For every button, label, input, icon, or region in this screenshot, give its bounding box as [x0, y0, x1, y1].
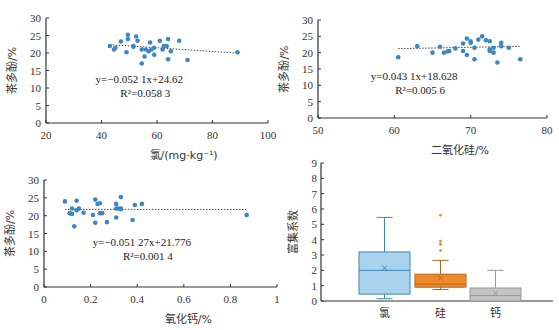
- data-point: [105, 220, 110, 225]
- data-point: [499, 41, 504, 46]
- r-squared: R²=0.005 6: [395, 84, 445, 96]
- y-tick-label: 0: [312, 295, 318, 307]
- y-tick-label: 2: [312, 264, 318, 276]
- box-silicon: [415, 214, 466, 290]
- data-point: [396, 55, 401, 60]
- y-tick-label: 6: [312, 203, 318, 215]
- y-tick-label: 5: [36, 100, 42, 112]
- y-axis-label: 茶多酚/%: [5, 47, 19, 94]
- x-tick-label: 0.8: [224, 293, 238, 305]
- data-point: [135, 38, 140, 43]
- boxplot-enrichment-coefficient: 0123456789富集系数氯硅钙: [286, 157, 553, 320]
- data-point: [77, 206, 82, 211]
- x-axis-label: 氯/(mg·kg⁻¹): [150, 148, 218, 162]
- y-tick-label: 15: [28, 228, 40, 240]
- box-calcium: [470, 270, 521, 301]
- data-point: [465, 36, 470, 41]
- y-axis-label: 茶多酚/%: [3, 210, 17, 257]
- data-point: [487, 39, 492, 44]
- y-tick-label: 20: [302, 47, 314, 59]
- scatter-calcium-oxide-vs-tea-polyphenol: 05101520253000.20.40.60.81茶多酚/%氧化钙/%y=−0…: [3, 174, 280, 326]
- data-point: [139, 61, 144, 66]
- regression-equation: y=−0.051 27x+21.776: [93, 236, 192, 248]
- data-point: [438, 44, 443, 49]
- data-point: [119, 195, 124, 200]
- data-point: [108, 44, 113, 49]
- data-point: [480, 34, 485, 39]
- data-point: [72, 224, 77, 229]
- x-axis-label: 二氧化硅/%: [431, 143, 489, 157]
- data-point: [131, 44, 136, 49]
- x-tick-label: 40: [96, 129, 108, 141]
- r-squared: R²=0.001 4: [123, 250, 173, 262]
- data-point: [114, 202, 119, 207]
- data-point: [164, 44, 169, 49]
- y-tick-label: 3: [312, 249, 318, 261]
- data-point: [476, 37, 481, 42]
- data-point: [93, 221, 98, 226]
- y-tick-label: 0: [34, 281, 40, 293]
- data-point: [491, 50, 496, 55]
- data-point: [113, 45, 118, 50]
- y-tick-label: 15: [30, 65, 42, 77]
- data-point: [142, 54, 147, 59]
- data-point: [235, 50, 240, 55]
- y-tick-label: 10: [28, 245, 40, 257]
- y-tick-label: 25: [30, 30, 42, 42]
- data-point: [134, 34, 139, 39]
- data-point: [152, 45, 157, 50]
- data-point: [415, 44, 420, 49]
- regression-equation: y=−0.052 1x+24.62: [96, 73, 183, 85]
- data-point: [157, 38, 162, 43]
- outlier-point: [439, 249, 442, 252]
- box-chlorine: [359, 217, 410, 298]
- x-tick-label: 60: [389, 124, 401, 136]
- x-tick-label: 0.6: [177, 293, 191, 305]
- data-point: [185, 58, 190, 63]
- data-point: [74, 198, 79, 203]
- box-iqr: [415, 274, 466, 287]
- y-tick-label: 5: [34, 263, 40, 275]
- trend-line: [110, 45, 238, 53]
- y-axis-label: 富集系数: [286, 210, 300, 254]
- data-point: [114, 215, 119, 220]
- x-tick-label: 80: [542, 124, 554, 136]
- data-point: [461, 41, 466, 46]
- data-point: [518, 57, 523, 62]
- y-tick-label: 9: [312, 157, 318, 169]
- outlier-point: [439, 240, 442, 243]
- data-point: [491, 45, 496, 50]
- data-point: [70, 206, 75, 211]
- y-tick-label: 20: [30, 47, 42, 59]
- category-label: 硅: [435, 307, 446, 320]
- data-point: [453, 46, 458, 51]
- data-point: [91, 213, 96, 218]
- x-tick-label: 0.2: [84, 293, 98, 305]
- data-point: [133, 203, 138, 208]
- x-tick-label: 0: [41, 293, 47, 305]
- data-point: [166, 57, 171, 62]
- data-point: [63, 199, 68, 204]
- data-point: [126, 33, 131, 38]
- data-point: [119, 39, 124, 44]
- x-tick-label: 1: [274, 293, 280, 305]
- data-point: [81, 211, 86, 216]
- x-tick-label: 60: [152, 129, 164, 141]
- y-tick-label: 20: [28, 210, 40, 222]
- y-tick-label: 0: [308, 112, 314, 124]
- y-tick-label: 7: [312, 188, 318, 200]
- data-point: [507, 45, 512, 50]
- data-point: [98, 201, 103, 206]
- data-point: [472, 57, 477, 62]
- category-label: 钙: [490, 306, 501, 320]
- x-axis-label: 氧化钙/%: [165, 312, 212, 326]
- y-tick-label: 15: [302, 63, 314, 75]
- data-point: [495, 60, 500, 65]
- y-tick-label: 1: [312, 280, 318, 292]
- data-point: [472, 45, 477, 50]
- data-point: [148, 40, 153, 45]
- y-tick-label: 30: [28, 174, 40, 186]
- data-point: [244, 213, 249, 218]
- y-tick-label: 0: [36, 117, 42, 129]
- y-tick-label: 10: [30, 82, 42, 94]
